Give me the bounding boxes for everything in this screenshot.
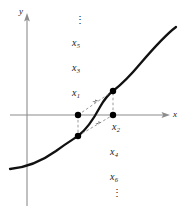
label-x6-sub: 6: [115, 176, 118, 183]
label-x1-sub: 1: [77, 92, 80, 99]
x-axis-label: x: [173, 110, 177, 119]
label-x3-base: x: [72, 62, 76, 73]
label-x5-base: x: [72, 37, 76, 48]
label-x3-sub: 3: [77, 67, 80, 74]
label-x3: x3: [72, 63, 80, 73]
label-x6-base: x: [110, 171, 114, 182]
label-x4-base: x: [110, 146, 114, 157]
y-axis: [24, 13, 30, 206]
function-curve: [10, 27, 176, 169]
label-x2-sub: 2: [117, 126, 120, 133]
y-axis-label: y: [19, 7, 23, 16]
label-x4: x4: [110, 147, 118, 157]
figure-canvas: [0, 0, 184, 212]
x-axis: [10, 112, 170, 118]
math-figure: y x ⋮ x5 x3 x1 x2 x4 x6 ⋮: [0, 0, 184, 212]
point-curve-upper: [110, 88, 116, 94]
label-x5: x5: [72, 38, 80, 48]
top-ellipsis: ⋮: [75, 18, 85, 21]
label-x5-sub: 5: [77, 42, 80, 49]
label-x4-sub: 4: [115, 151, 118, 158]
dashed-tangent-arrow-lower: [78, 116, 112, 136]
bottom-ellipsis: ⋮: [112, 191, 122, 194]
point-curve-lower: [75, 133, 81, 139]
label-x2-base: x: [112, 121, 116, 132]
label-x6: x6: [110, 172, 118, 182]
dashed-tangent-arrow-upper: [78, 92, 112, 115]
point-x1-axis: [75, 112, 81, 118]
label-x2: x2: [112, 122, 120, 132]
point-x2-axis: [110, 112, 116, 118]
label-x1: x1: [72, 88, 80, 98]
label-x1-base: x: [72, 87, 76, 98]
